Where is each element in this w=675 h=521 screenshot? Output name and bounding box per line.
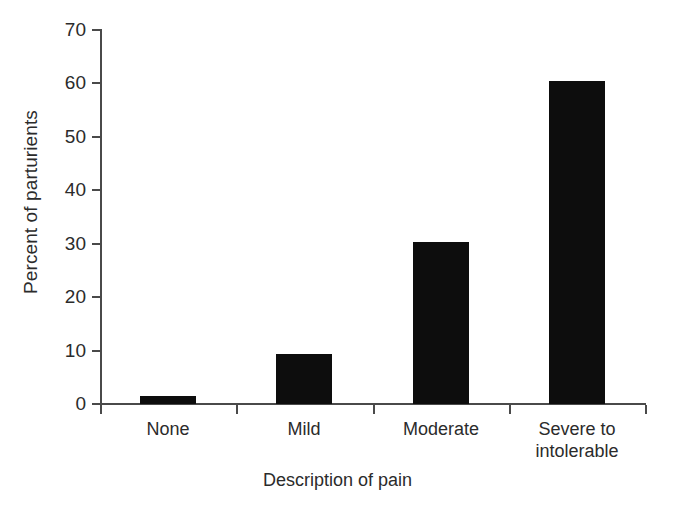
y-axis-tick-label: 10 <box>16 341 86 360</box>
bar[interactable] <box>276 354 332 404</box>
bar[interactable] <box>140 396 196 404</box>
x-axis-category-label: None <box>100 418 236 440</box>
plot-area <box>100 30 645 404</box>
y-axis-tick-label: 50 <box>16 127 86 146</box>
x-axis-tick <box>509 405 511 414</box>
x-axis-category-label: Mild <box>236 418 372 440</box>
y-axis-tick-label: 20 <box>16 287 86 306</box>
y-axis-tick-label: 60 <box>16 73 86 92</box>
x-axis-category-label: Moderate <box>373 418 509 440</box>
x-axis-tick <box>236 405 238 414</box>
x-axis-tick <box>645 405 647 414</box>
bar-chart: Percent of parturients 010203040506070 N… <box>0 0 675 521</box>
bar[interactable] <box>549 81 605 404</box>
x-axis-tick <box>373 405 375 414</box>
y-axis-tick-label: 0 <box>16 394 86 413</box>
y-axis-tick-label: 30 <box>16 234 86 253</box>
y-axis-tick-label: 40 <box>16 180 86 199</box>
x-axis-category-label: Severe to intolerable <box>509 418 645 462</box>
x-axis-tick <box>100 405 102 414</box>
bar[interactable] <box>413 242 469 404</box>
y-axis-tick-label: 70 <box>16 20 86 39</box>
x-axis-title: Description of pain <box>0 470 675 491</box>
